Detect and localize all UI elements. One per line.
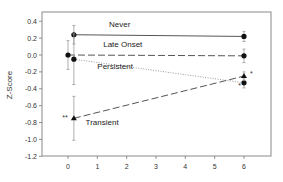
- x-tick-label: 0: [66, 163, 70, 170]
- circle-marker-icon: [241, 80, 246, 85]
- y-tick-label: 0.0: [27, 52, 37, 59]
- series-transient: Transient: [71, 72, 247, 140]
- significance-marker: *: [250, 70, 253, 77]
- y-tick-label: -0.6: [25, 102, 37, 109]
- circle-marker-icon: [241, 53, 246, 58]
- y-axis: 0.40.20.0-0.2-0.4-0.6-0.8-1.0-1.2: [25, 18, 42, 160]
- circle-marker-icon: [241, 34, 246, 39]
- series-line-never: [74, 35, 244, 37]
- y-tick-label: -0.8: [25, 119, 37, 126]
- y-tick-label: -0.4: [25, 85, 37, 92]
- circle-marker-icon: [71, 57, 76, 62]
- series-label-transient: Transient: [86, 118, 120, 127]
- significance-annotations: ****: [62, 70, 253, 121]
- triangle-marker-icon: [241, 73, 247, 78]
- x-tick-label: 3: [154, 163, 158, 170]
- x-tick-label: 5: [213, 163, 217, 170]
- series-group: NeverLate OnsetPersistentTransient: [65, 20, 247, 140]
- y-tick-label: -0.2: [25, 68, 37, 75]
- x-tick-label: 2: [125, 163, 129, 170]
- circle-marker-icon: [65, 52, 70, 57]
- y-tick-label: -1.2: [25, 153, 37, 160]
- series-label-persistent: Persistent: [97, 62, 133, 71]
- series-late-onset: Late Onset: [65, 40, 246, 70]
- y-tick-label: -1.0: [25, 136, 37, 143]
- y-tick-label: 0.2: [27, 35, 37, 42]
- x-tick-label: 1: [95, 163, 99, 170]
- z-score-line-chart: 0.40.20.0-0.2-0.4-0.6-0.8-1.0-1.2 012345…: [0, 0, 283, 182]
- series-line-late-onset: [68, 55, 244, 56]
- series-persistent: Persistent: [71, 34, 246, 88]
- plot-frame: [42, 12, 271, 156]
- x-axis: 0123456: [66, 156, 246, 170]
- significance-marker: *: [238, 82, 241, 89]
- y-axis-title: Z-Score: [5, 70, 14, 99]
- series-label-late-onset: Late Onset: [103, 40, 143, 49]
- series-line-transient: [74, 76, 244, 118]
- significance-marker: **: [62, 114, 68, 121]
- series-never: Never: [71, 20, 246, 44]
- x-tick-label: 4: [183, 163, 187, 170]
- x-tick-label: 6: [242, 163, 246, 170]
- plot-border: [42, 12, 271, 156]
- y-tick-label: 0.4: [27, 18, 37, 25]
- series-label-never: Never: [109, 20, 131, 29]
